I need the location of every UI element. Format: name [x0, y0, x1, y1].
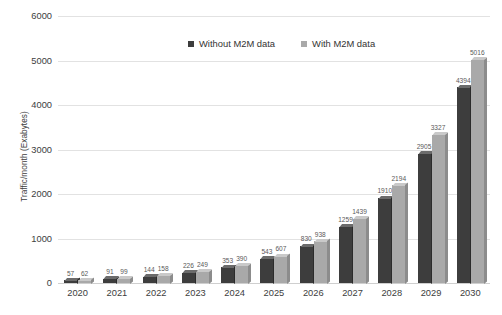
bar[interactable]: 390 [235, 266, 248, 283]
bar-groups: 5762919914415822624935339054360783093812… [58, 16, 490, 283]
bar-group: 830938 [294, 16, 333, 283]
bar-value-label: 1439 [352, 209, 367, 216]
bar-wrapper: 99 [117, 279, 130, 283]
bar[interactable]: 57 [64, 280, 77, 283]
plot-area: 0100020003000400050006000 57629199144158… [58, 16, 490, 283]
bar-wrapper: 158 [157, 276, 170, 283]
y-axis-title: Traffic/month (Exabytes) [20, 77, 29, 237]
bar-face [378, 198, 391, 283]
bar-group: 226249 [176, 16, 215, 283]
legend-item-with-m2m: With M2M data [301, 38, 375, 49]
bar[interactable]: 91 [103, 279, 116, 283]
bar-face [432, 135, 445, 283]
bar-wrapper: 1910 [378, 198, 391, 283]
x-axis-tick-label: 2029 [411, 288, 450, 298]
bar-value-label: 5016 [470, 50, 485, 57]
bar-face [143, 277, 156, 283]
bar-wrapper: 4394 [457, 87, 470, 283]
bar-value-label: 830 [301, 236, 312, 243]
bar-side-face [209, 270, 212, 284]
bar-wrapper: 62 [78, 280, 91, 283]
bar-value-label: 99 [120, 269, 127, 276]
y-axis-tick-label: 5000 [31, 56, 52, 66]
bar-group: 9199 [97, 16, 136, 283]
bar[interactable]: 353 [221, 267, 234, 283]
bar-value-label: 353 [222, 258, 233, 265]
x-axis-tick-label: 2022 [137, 288, 176, 298]
bar-wrapper: 390 [235, 266, 248, 283]
bar[interactable]: 4394 [457, 87, 470, 283]
bar-wrapper: 830 [300, 246, 313, 283]
bar-face [64, 280, 77, 283]
bar-wrapper: 353 [221, 267, 234, 283]
bar-group: 19102194 [372, 16, 411, 283]
bar-face [78, 280, 91, 283]
legend-label-without-m2m: Without M2M data [199, 38, 275, 49]
bar-value-label: 226 [183, 263, 194, 270]
bar-face [274, 256, 287, 283]
legend-swatch-icon-without-m2m [188, 41, 194, 47]
bar-value-label: 249 [197, 262, 208, 269]
bar[interactable]: 1259 [339, 227, 352, 283]
bar-value-label: 3327 [431, 125, 446, 132]
bar-value-label: 158 [158, 266, 169, 273]
bar[interactable]: 5016 [471, 60, 484, 283]
x-axis-tick-label: 2021 [97, 288, 136, 298]
bar[interactable]: 99 [117, 279, 130, 283]
bar-face [353, 219, 366, 283]
bar-group: 12591439 [333, 16, 372, 283]
x-axis-labels: 2020202120222023202420252026202720282029… [58, 288, 490, 298]
bar-value-label: 144 [144, 267, 155, 274]
bar-group: 29053327 [411, 16, 450, 283]
y-axis-tick-label: 1000 [31, 234, 52, 244]
y-axis-tick-label: 2000 [31, 189, 52, 199]
bar-face [117, 279, 130, 283]
bar[interactable]: 226 [182, 273, 195, 283]
bar-group: 5762 [58, 16, 97, 283]
bar-wrapper: 226 [182, 273, 195, 283]
bar-wrapper: 57 [64, 280, 77, 283]
bar-side-face [405, 183, 408, 284]
x-axis-tick-label: 2027 [333, 288, 372, 298]
bar[interactable]: 1439 [353, 219, 366, 283]
bar-group: 543607 [254, 16, 293, 283]
bar-side-face [248, 264, 251, 284]
bar-face [314, 241, 327, 283]
bar-value-label: 390 [236, 256, 247, 263]
bar-group: 144158 [137, 16, 176, 283]
bar-side-face [287, 254, 290, 284]
bar[interactable]: 2194 [392, 185, 405, 283]
bar-wrapper: 1259 [339, 227, 352, 283]
bar-face [260, 259, 273, 283]
bar[interactable]: 144 [143, 277, 156, 283]
x-axis-tick-label: 2025 [254, 288, 293, 298]
bar[interactable]: 938 [314, 241, 327, 283]
bar-value-label: 938 [315, 232, 326, 239]
y-axis-tick-label: 4000 [31, 100, 52, 110]
bar-face [157, 276, 170, 283]
bar[interactable]: 62 [78, 280, 91, 283]
bar-value-label: 2194 [391, 176, 406, 183]
bar[interactable]: 158 [157, 276, 170, 283]
bar-wrapper: 938 [314, 241, 327, 283]
bar-value-label: 62 [81, 271, 88, 278]
bar[interactable]: 3327 [432, 135, 445, 283]
y-axis-tick-label: 0 [47, 278, 52, 288]
bar-value-label: 2905 [417, 144, 432, 151]
bar[interactable]: 543 [260, 259, 273, 283]
bar-wrapper: 249 [196, 272, 209, 283]
bar-side-face [484, 58, 487, 284]
bar-wrapper: 5016 [471, 60, 484, 283]
bar[interactable]: 830 [300, 246, 313, 283]
y-axis-tick-label: 6000 [31, 11, 52, 21]
bar-side-face [130, 277, 133, 284]
chart-legend: Without M2M data With M2M data [188, 38, 375, 49]
bar-face [103, 279, 116, 283]
bar-value-label: 607 [275, 246, 286, 253]
bar[interactable]: 1910 [378, 198, 391, 283]
bar[interactable]: 249 [196, 272, 209, 283]
bar[interactable]: 607 [274, 256, 287, 283]
x-axis-tick-label: 2020 [58, 288, 97, 298]
bar-wrapper: 607 [274, 256, 287, 283]
bar[interactable]: 2905 [418, 154, 431, 283]
